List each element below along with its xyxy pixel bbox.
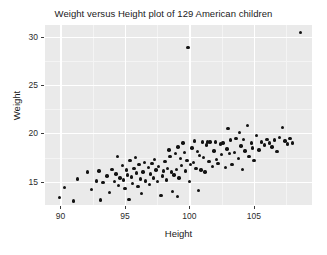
data-point (211, 165, 214, 168)
data-point (117, 184, 120, 187)
data-point (122, 178, 125, 181)
data-point (197, 189, 200, 192)
data-point (175, 168, 178, 171)
gridline-minor-vertical (157, 25, 158, 205)
data-point (76, 177, 79, 180)
data-point (176, 145, 179, 148)
data-point (95, 179, 98, 182)
data-point (153, 158, 156, 161)
gridline-major-horizontal (45, 37, 312, 38)
data-point (252, 159, 255, 162)
data-point (233, 151, 236, 154)
data-point (291, 141, 294, 144)
data-point (140, 192, 143, 195)
data-point (105, 174, 108, 177)
data-point (86, 170, 89, 173)
data-point (201, 140, 204, 143)
data-point (128, 159, 131, 162)
scatter-plot-figure: Weight versus Height plot of 129 America… (0, 0, 327, 255)
data-point (147, 166, 150, 169)
data-point (150, 162, 153, 165)
gridline-major-horizontal (45, 133, 312, 134)
data-point (162, 169, 165, 172)
data-point (132, 167, 135, 170)
data-point (278, 136, 281, 139)
data-point (185, 159, 188, 162)
data-point (224, 166, 227, 169)
data-point (247, 155, 250, 158)
data-point (226, 127, 229, 130)
gridline-minor-vertical (222, 25, 223, 205)
data-point (243, 149, 246, 152)
data-point (126, 173, 129, 176)
data-point (177, 176, 180, 179)
data-point (171, 190, 174, 193)
data-point (127, 198, 130, 201)
data-point (114, 172, 117, 175)
data-point (167, 148, 170, 151)
data-point (174, 152, 177, 155)
data-point (250, 141, 253, 144)
data-point (137, 163, 140, 166)
data-point (273, 138, 276, 141)
data-point (152, 176, 155, 179)
data-point (246, 124, 249, 127)
x-tick-label-95: 95 (105, 211, 145, 221)
data-point (270, 145, 273, 148)
data-point (237, 157, 240, 160)
data-point (299, 31, 302, 34)
y-axis-label: Weight (11, 76, 22, 136)
data-point (156, 180, 159, 183)
data-point (199, 168, 202, 171)
x-tick-mark (189, 206, 190, 209)
gridline-minor-horizontal (45, 109, 312, 110)
data-point (157, 165, 160, 168)
data-point (196, 150, 199, 153)
gridline-major-horizontal (45, 85, 312, 86)
plot-panel (45, 25, 312, 205)
y-tick-mark (41, 37, 44, 38)
data-point (144, 179, 147, 182)
x-tick-mark (254, 206, 255, 209)
data-point (212, 149, 215, 152)
data-point (225, 147, 228, 150)
data-point (180, 164, 183, 167)
data-point (165, 178, 168, 181)
y-tick-label-30: 30 (3, 32, 38, 42)
data-point (63, 186, 66, 189)
data-point (281, 126, 284, 129)
data-point (183, 151, 186, 154)
y-tick-mark (41, 85, 44, 86)
gridline-major-vertical (125, 25, 126, 205)
data-point (141, 170, 144, 173)
x-axis-label: Height (45, 228, 312, 239)
y-tick-label-15: 15 (3, 177, 38, 187)
data-point (268, 141, 271, 144)
data-point (234, 137, 237, 140)
data-point (194, 167, 197, 170)
data-point (161, 174, 164, 177)
data-point (154, 168, 157, 171)
x-tick-label-90: 90 (40, 211, 80, 221)
gridline-major-horizontal (45, 182, 312, 183)
gridline-minor-vertical (93, 25, 94, 205)
data-point (251, 146, 254, 149)
data-point (255, 134, 258, 137)
data-point (275, 150, 278, 153)
data-point (125, 168, 128, 171)
data-point (208, 140, 211, 143)
data-point (242, 138, 245, 141)
data-point (121, 164, 124, 167)
gridline-major-vertical (60, 25, 61, 205)
data-point (263, 143, 266, 146)
data-point (136, 185, 139, 188)
data-point (139, 177, 142, 180)
data-point (135, 171, 138, 174)
data-point (193, 139, 196, 142)
data-point (215, 158, 218, 161)
x-tick-mark (125, 206, 126, 209)
data-point (172, 173, 175, 176)
data-point (176, 195, 179, 198)
data-point (186, 46, 189, 49)
gridline-major-vertical (189, 25, 190, 205)
